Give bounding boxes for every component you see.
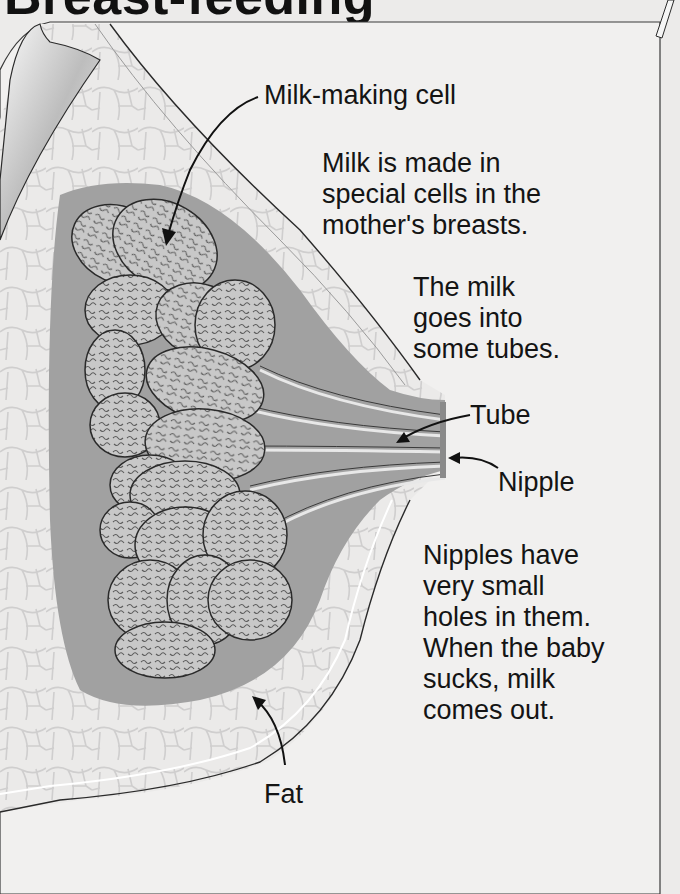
paragraph-line: Milk is made in [322,148,541,179]
paragraph-line: The milk [413,272,560,303]
paragraph-line: comes out. [423,695,605,726]
paragraph-line: some tubes. [413,334,560,365]
label-tube: Tube [470,400,531,431]
paragraph-milk-tubes: The milk goes into some tubes. [413,272,560,365]
paragraph-line: mother's breasts. [322,210,541,241]
paragraph-line: holes in them. [423,602,605,633]
paragraph-line: Nipples have [423,540,605,571]
paragraph-line: very small [423,571,605,602]
label-milk-making-cell: Milk-making cell [264,80,456,111]
paragraph-nipples: Nipples have very small holes in them. W… [423,540,605,726]
diagram-panel: Breast-feeding [0,0,680,894]
label-fat: Fat [264,779,303,810]
label-nipple: Nipple [498,467,575,498]
paragraph-line: special cells in the [322,179,541,210]
paragraph-line: When the baby [423,633,605,664]
paragraph-line: goes into [413,303,560,334]
paragraph-line: sucks, milk [423,664,605,695]
paragraph-milk-made: Milk is made in special cells in the mot… [322,148,541,241]
breast-anatomy-illustration [0,0,680,894]
